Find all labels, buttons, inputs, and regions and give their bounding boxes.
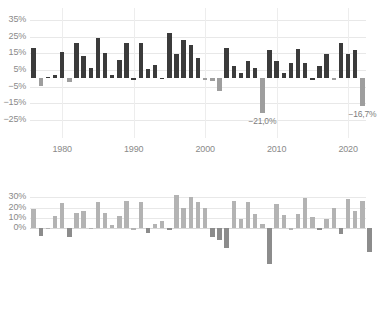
- bar: [139, 43, 143, 79]
- x-axis-tick-label: 2020: [328, 144, 368, 154]
- bar: [310, 78, 314, 80]
- bar: [46, 228, 50, 230]
- bar: [60, 203, 64, 228]
- bar: [296, 214, 300, 228]
- bar: [139, 202, 143, 228]
- y-axis-tick-label: 5%: [0, 64, 26, 74]
- bar: [332, 208, 336, 228]
- bar: [317, 66, 321, 79]
- y-axis-tick-label: 25%: [0, 31, 26, 41]
- bar: [181, 40, 185, 78]
- bar: [124, 201, 128, 229]
- bar: [74, 43, 78, 79]
- bar: [310, 217, 314, 228]
- bar: [239, 73, 243, 79]
- bar: [303, 63, 307, 79]
- bar: [131, 78, 135, 80]
- bar: [253, 214, 257, 228]
- y-gridline: [30, 120, 366, 121]
- bar: [146, 69, 150, 78]
- y-axis-tick-label: 15%: [0, 47, 26, 57]
- bar-value-annotation: −21,0%: [241, 116, 283, 126]
- bar: [282, 215, 286, 228]
- bar: [289, 63, 293, 79]
- y-axis-tick-label: −5%: [0, 81, 26, 91]
- bar: [67, 228, 71, 236]
- bar: [210, 228, 214, 236]
- bar: [67, 78, 71, 82]
- bar: [217, 78, 221, 91]
- bar: [274, 204, 278, 228]
- x-gridline: [134, 8, 135, 138]
- bar: [160, 221, 164, 228]
- bar: [196, 58, 200, 78]
- bar: [296, 49, 300, 78]
- bar: [203, 208, 207, 228]
- bar: [89, 228, 93, 230]
- bar: [210, 78, 214, 81]
- y-axis-tick-label: 0%: [0, 222, 26, 232]
- bar: [174, 195, 178, 228]
- bar: [53, 216, 57, 228]
- bar: [360, 201, 364, 229]
- top-bar-chart: 35%25%15%5%−5%−15%−25%198019902000201020…: [0, 0, 370, 170]
- bar: [196, 202, 200, 229]
- y-gridline: [30, 20, 366, 21]
- bar: [31, 48, 35, 78]
- bar: [174, 54, 178, 78]
- bar: [232, 66, 236, 79]
- bar: [53, 75, 57, 78]
- bar: [31, 209, 35, 229]
- bar: [239, 219, 243, 228]
- x-axis-tick-label: 2000: [185, 144, 225, 154]
- y-gridline: [30, 197, 366, 198]
- y-gridline: [30, 53, 366, 54]
- bar: [110, 225, 114, 228]
- bar: [353, 50, 357, 78]
- y-axis-tick-label: −25%: [0, 114, 26, 124]
- x-axis-tick-label: 1990: [114, 144, 154, 154]
- y-axis-tick-label: 35%: [0, 14, 26, 24]
- bar: [353, 211, 357, 228]
- bar: [110, 75, 114, 78]
- bar: [81, 211, 85, 228]
- bar: [224, 48, 228, 78]
- bar: [96, 38, 100, 79]
- bar: [303, 198, 307, 228]
- bar: [153, 65, 157, 78]
- bar: [189, 197, 193, 228]
- bar: [39, 228, 43, 236]
- x-axis-tick-label: 1980: [42, 144, 82, 154]
- bar: [339, 43, 343, 79]
- bar: [253, 68, 257, 78]
- y-gridline: [30, 37, 366, 38]
- x-gridline: [205, 8, 206, 138]
- bar: [217, 228, 221, 239]
- bar: [282, 73, 286, 79]
- bar: [146, 228, 150, 233]
- bar: [103, 53, 107, 78]
- x-axis-tick-label: 2010: [257, 144, 297, 154]
- bar: [96, 202, 100, 229]
- bar: [124, 43, 128, 79]
- bar: [81, 56, 85, 79]
- bar-value-annotation: −16,7%: [341, 109, 381, 119]
- y-gridline: [30, 103, 366, 104]
- bar: [131, 228, 135, 230]
- bar: [117, 60, 121, 78]
- y-axis-tick-label: 20%: [0, 202, 26, 212]
- bar: [346, 54, 350, 78]
- bar: [153, 224, 157, 229]
- bar: [167, 228, 171, 230]
- bar: [324, 54, 328, 78]
- bar: [74, 213, 78, 229]
- bar: [267, 50, 271, 78]
- bar: [203, 78, 207, 80]
- bar: [39, 78, 43, 86]
- bar: [289, 228, 293, 230]
- y-axis-tick-label: 10%: [0, 212, 26, 222]
- bar: [317, 228, 321, 230]
- bar: [360, 78, 364, 106]
- bar: [160, 78, 164, 80]
- y-axis-tick-label: −15%: [0, 97, 26, 107]
